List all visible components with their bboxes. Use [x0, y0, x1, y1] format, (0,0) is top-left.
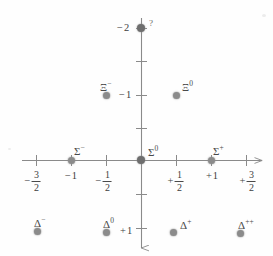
point-label-delta-plus-plus: Δ++: [238, 220, 254, 231]
y-tick-label-plus-one: +1: [120, 226, 132, 237]
y-tick-label-minus-one: −1: [119, 90, 131, 101]
point-marker[interactable]: [137, 156, 145, 164]
point-marker[interactable]: [173, 92, 180, 99]
y-tick-label-minus-two: −2: [117, 23, 129, 34]
point-label-xi-zero: Ξ0: [182, 82, 193, 93]
x-tick-label-plus-one-half: +12: [168, 170, 185, 193]
x-tick-label-minus-one: −1: [65, 171, 77, 182]
point-label-sigma-minus: Σ−: [74, 146, 85, 157]
point-marker[interactable]: [170, 229, 177, 236]
x-tick-label-plus-three-halves: +32: [240, 170, 257, 193]
point-label-delta-zero: Δ0: [103, 219, 114, 230]
point-label-xi-minus: Ξ−: [100, 82, 112, 93]
point-marker[interactable]: [68, 157, 75, 164]
x-tick-label-plus-one: +1: [206, 171, 218, 182]
point-marker[interactable]: [208, 157, 215, 164]
point-label-unknown: ?: [149, 19, 153, 28]
point-label-sigma-zero: Σ0: [148, 147, 158, 158]
point-label-delta-minus: Δ−: [34, 218, 46, 229]
point-label-delta-plus: Δ+: [180, 220, 192, 231]
point-marker[interactable]: [137, 24, 145, 32]
x-tick-label-minus-three-halves: −32: [25, 170, 42, 193]
baryon-multiplet-diagram: ? Ξ− Ξ0 Σ− Σ0: [0, 0, 273, 256]
x-tick-label-minus-one-half: −12: [96, 170, 113, 193]
point-label-sigma-plus: Σ+: [213, 146, 224, 157]
